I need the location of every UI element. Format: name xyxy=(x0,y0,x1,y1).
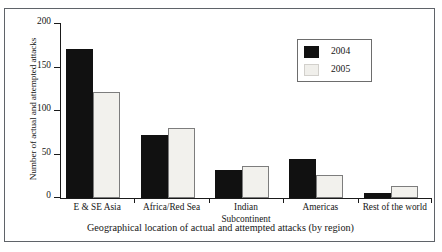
y-tick-label-200: 200 xyxy=(37,16,51,26)
bar-2004-group-0 xyxy=(66,49,93,198)
legend: 2004 2005 xyxy=(297,39,372,82)
y-tick-0: 0 xyxy=(54,197,61,198)
y-tick-label-150: 150 xyxy=(37,60,51,70)
y-tick-label-100: 100 xyxy=(37,103,51,113)
legend-swatch-2005 xyxy=(304,64,319,76)
bar-2004-group-1 xyxy=(141,135,168,199)
y-tick-label-50: 50 xyxy=(42,147,51,157)
x-category-label-4: Rest of the world xyxy=(349,202,441,214)
y-tick-100: 100 xyxy=(54,110,61,111)
bar-2005-group-0 xyxy=(93,92,120,198)
legend-swatch-2004 xyxy=(304,46,319,58)
bar-2005-group-3 xyxy=(316,175,343,198)
legend-label-2004: 2004 xyxy=(331,45,350,56)
y-tick-label-0: 0 xyxy=(46,190,51,200)
bar-2004-group-3 xyxy=(289,159,316,198)
legend-label-2005: 2005 xyxy=(331,63,350,74)
bar-2005-group-1 xyxy=(168,128,195,198)
x-axis-title: Geographical location of actual and atte… xyxy=(5,222,436,233)
bar-2005-group-2 xyxy=(242,166,269,198)
x-tick-end xyxy=(431,199,432,203)
bar-2004-group-2 xyxy=(215,170,242,198)
y-tick-150: 150 xyxy=(54,67,61,68)
y-axis-line xyxy=(60,24,61,199)
bar-2004-group-4 xyxy=(364,193,391,198)
y-tick-200: 200 xyxy=(54,23,61,24)
bar-chart-figure: Number of actual and attempted attacks 0… xyxy=(0,0,442,252)
figure-frame: Number of actual and attempted attacks 0… xyxy=(4,8,435,242)
plot-area: 050100150200E & SE AsiaAfrica/Red SeaInd… xyxy=(60,24,432,199)
x-axis-line xyxy=(60,198,432,199)
bar-2005-group-4 xyxy=(391,186,418,198)
y-tick-50: 50 xyxy=(54,154,61,155)
